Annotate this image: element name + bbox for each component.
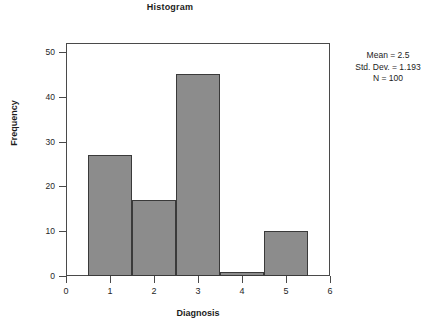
- x-tick-label: 5: [271, 286, 301, 296]
- stats-annotation: Mean = 2.5 Std. Dev. = 1.193 N = 100: [344, 50, 432, 85]
- x-tick-mark: [110, 276, 111, 283]
- x-tick-label: 2: [139, 286, 169, 296]
- x-axis-title: Diagnosis: [66, 308, 330, 318]
- y-axis-title: Frequency: [9, 63, 19, 183]
- x-tick-mark: [242, 276, 243, 283]
- stats-n: N = 100: [344, 73, 432, 85]
- x-tick-label: 4: [227, 286, 257, 296]
- x-tick-label: 3: [183, 286, 213, 296]
- x-tick-mark: [66, 276, 67, 283]
- x-tick-mark: [198, 276, 199, 283]
- x-tick-mark: [154, 276, 155, 283]
- stats-std-dev: Std. Dev. = 1.193: [344, 62, 432, 74]
- x-tick-label: 0: [51, 286, 81, 296]
- x-tick-label: 6: [315, 286, 345, 296]
- histogram-chart: Histogram 01020304050 0123456 Frequency …: [0, 0, 434, 332]
- x-tick-mark: [330, 276, 331, 283]
- x-tick-label: 1: [95, 286, 125, 296]
- x-tick-mark: [286, 276, 287, 283]
- stats-mean: Mean = 2.5: [344, 50, 432, 62]
